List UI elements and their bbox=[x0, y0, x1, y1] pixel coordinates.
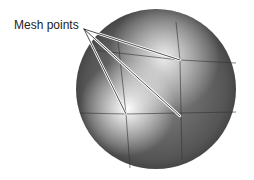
mesh-points-label: Mesh points bbox=[14, 18, 79, 32]
